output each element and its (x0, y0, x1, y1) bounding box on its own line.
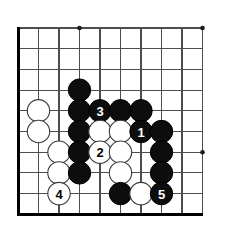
white-stone-c6r8[interactable] (130, 182, 152, 204)
move-number-label: 4 (55, 187, 63, 202)
white-stone-disc[interactable] (109, 162, 131, 184)
white-stone-c5r5[interactable] (109, 120, 131, 142)
black-stone-disc[interactable] (109, 100, 131, 122)
black-stone-c7r8[interactable]: 5 (150, 182, 172, 204)
move-number-label: 1 (137, 125, 144, 140)
move-number-label: 2 (96, 145, 103, 160)
black-stone-c6r4[interactable] (130, 100, 152, 122)
board-edges (17, 27, 203, 216)
move-number-label: 3 (96, 104, 103, 119)
move-number-label: 5 (158, 187, 165, 202)
white-stone-disc[interactable] (109, 141, 131, 163)
black-stone-c3r7[interactable] (68, 162, 90, 184)
black-stone-c7r6[interactable] (150, 141, 172, 163)
star-point (200, 150, 205, 155)
black-stone-c3r6[interactable] (68, 141, 90, 163)
go-board-diagram: 31245 (0, 0, 249, 241)
white-stone-c2r7[interactable] (48, 162, 70, 184)
grid-lines (18, 28, 203, 214)
black-stone-disc[interactable] (68, 120, 90, 142)
white-stone-disc[interactable] (27, 120, 49, 142)
white-stone-c1r5[interactable] (27, 120, 49, 142)
black-stone-c3r4[interactable] (68, 100, 90, 122)
white-stone-disc[interactable] (27, 100, 49, 122)
white-stone-disc[interactable] (48, 141, 70, 163)
white-stone-c2r6[interactable] (48, 141, 70, 163)
black-stone-c3r5[interactable] (68, 120, 90, 142)
star-point (77, 26, 82, 31)
white-stone-disc[interactable] (89, 120, 111, 142)
star-point (200, 26, 205, 31)
go-board-canvas[interactable]: 31245 (0, 0, 249, 241)
black-stone-c4r4[interactable]: 3 (89, 100, 111, 122)
white-stone-c5r7[interactable] (109, 162, 131, 184)
white-stone-c2r8[interactable]: 4 (48, 182, 70, 204)
black-stone-disc[interactable] (150, 120, 172, 142)
black-stone-disc[interactable] (68, 162, 90, 184)
white-stone-c4r6[interactable]: 2 (89, 141, 111, 163)
black-stone-disc[interactable] (130, 100, 152, 122)
white-stone-c1r4[interactable] (27, 100, 49, 122)
black-stone-disc[interactable] (68, 100, 90, 122)
black-stone-disc[interactable] (109, 182, 131, 204)
black-stone-c7r7[interactable] (150, 162, 172, 184)
black-stone-c3r3[interactable] (68, 79, 90, 101)
white-stone-c4r5[interactable] (89, 120, 111, 142)
black-stone-disc[interactable] (150, 162, 172, 184)
white-stone-c5r6[interactable] (109, 141, 131, 163)
black-stone-disc[interactable] (68, 79, 90, 101)
black-stone-disc[interactable] (68, 141, 90, 163)
white-stone-disc[interactable] (109, 120, 131, 142)
white-stone-disc[interactable] (130, 182, 152, 204)
black-stone-disc[interactable] (150, 141, 172, 163)
black-stone-c6r5[interactable]: 1 (130, 120, 152, 142)
black-stone-c5r8[interactable] (109, 182, 131, 204)
black-stone-c5r4[interactable] (109, 100, 131, 122)
white-stone-disc[interactable] (48, 162, 70, 184)
black-stone-c7r5[interactable] (150, 120, 172, 142)
